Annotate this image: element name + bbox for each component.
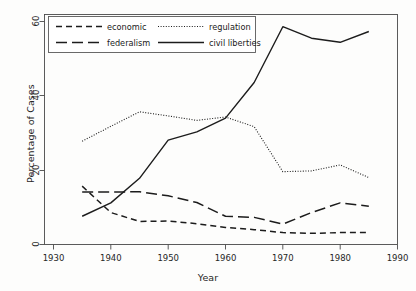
chart-canvas: 0 20 40 60 1930 1940 1950 1960 1970 1980… [0, 0, 416, 291]
legend: economic regulation federalism civil lib… [49, 17, 261, 53]
y-axis-title: Percentage of Cases [25, 69, 36, 199]
y-tick-label-60: 60 [31, 16, 41, 27]
x-tick-label-1980: 1980 [329, 253, 351, 263]
x-tick-label-1970: 1970 [272, 253, 294, 263]
x-axis-ticks: 1930 1940 1950 1960 1970 1980 1990 [43, 245, 409, 264]
legend-label-regulation: regulation [209, 22, 251, 32]
series-line-economic [82, 186, 369, 233]
series-line-regulation [82, 112, 369, 178]
y-tick-label-0: 0 [31, 241, 41, 246]
x-tick-label-1990: 1990 [387, 253, 409, 263]
x-axis-title: Year [0, 272, 416, 283]
x-tick-label-1950: 1950 [157, 253, 179, 263]
series-layer [82, 27, 369, 234]
line-chart: 0 20 40 60 1930 1940 1950 1960 1970 1980… [0, 0, 416, 291]
x-tick-label-1960: 1960 [215, 253, 237, 263]
series-line-federalism [82, 192, 369, 224]
series-line-civil-liberties [82, 27, 369, 217]
x-tick-label-1930: 1930 [43, 253, 65, 263]
legend-label-economic: economic [107, 22, 147, 32]
legend-label-federalism: federalism [107, 38, 150, 48]
legend-label-civil-liberties: civil liberties [209, 38, 261, 48]
x-tick-label-1940: 1940 [100, 253, 122, 263]
